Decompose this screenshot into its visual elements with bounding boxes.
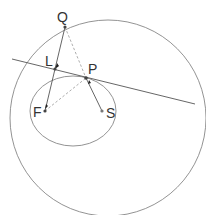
point-Q <box>63 25 66 28</box>
arrow-icon <box>88 80 91 84</box>
arrow-icon <box>45 104 48 109</box>
point-S <box>100 109 103 112</box>
diagram-canvas: Q L P F S <box>0 0 206 215</box>
label-L: L <box>45 53 53 69</box>
label-Q: Q <box>57 9 68 25</box>
label-P: P <box>88 61 97 77</box>
dashed-Q-P <box>65 27 86 78</box>
point-L <box>53 67 56 70</box>
dashed-F-P <box>45 78 86 111</box>
label-S: S <box>106 105 115 121</box>
tangent-line <box>12 59 195 104</box>
point-F <box>43 109 46 112</box>
label-F: F <box>33 104 42 120</box>
